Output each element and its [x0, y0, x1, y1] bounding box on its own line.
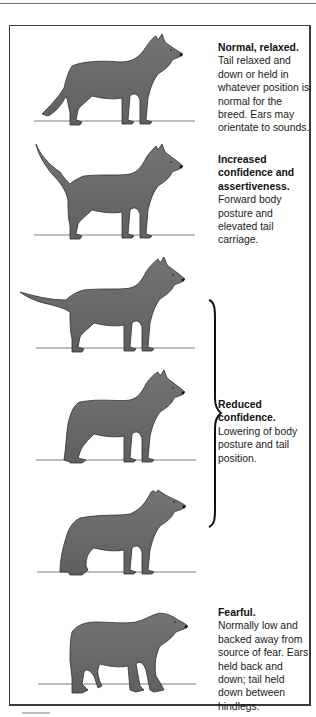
caption-title: Reduced confidence. [218, 398, 310, 425]
caption-normal-relaxed: Normal, relaxed. Tail relaxed and down o… [218, 41, 310, 135]
page-top-rule [0, 3, 316, 4]
caption-title: Increased confidence and assertiveness. [218, 153, 310, 193]
caption-description: Lowering of body posture and tail positi… [218, 426, 297, 464]
caption-fearful: Fearful. Normally low and backed away fr… [218, 606, 310, 713]
caption-title: Normal, relaxed. [218, 41, 310, 54]
caption-description: Tail relaxed and down or held in whateve… [218, 55, 309, 133]
caption-increased-confidence: Increased confidence and assertiveness. … [218, 153, 310, 247]
caption-description: Normally low and backed away from source… [218, 620, 308, 711]
caption-description: Forward body posture and elevated tail c… [218, 194, 282, 245]
page-bottom-mark [22, 712, 50, 714]
caption-reduced-confidence: Reduced confidence. Lowering of body pos… [218, 398, 310, 465]
caption-title: Fearful. [218, 606, 310, 619]
